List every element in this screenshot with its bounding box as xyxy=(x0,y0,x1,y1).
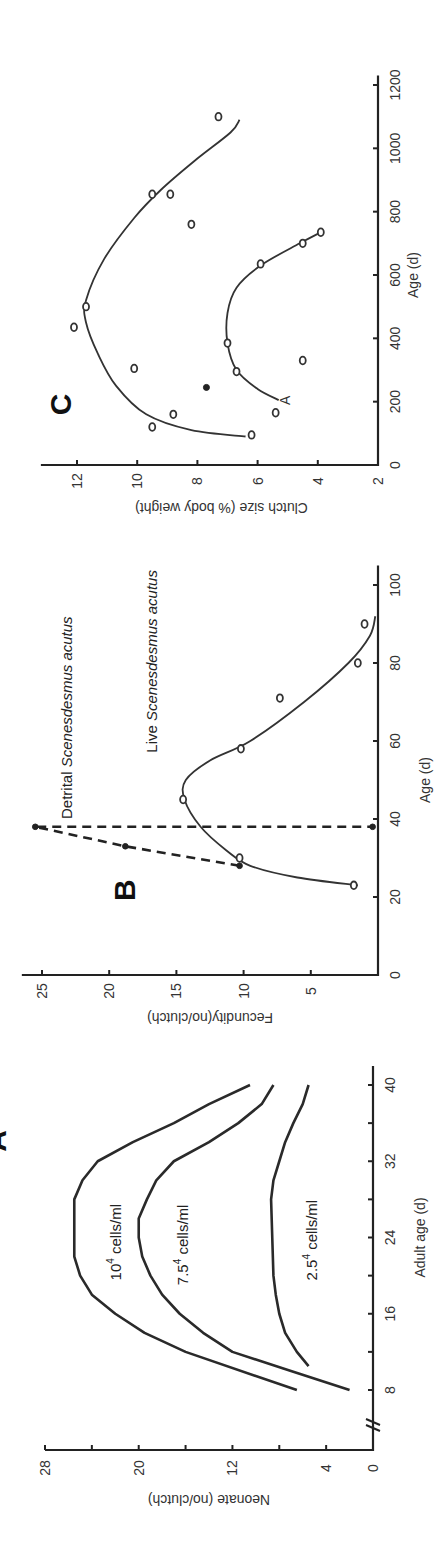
data-point-filled xyxy=(203,384,209,390)
x-tick-label: 60 xyxy=(387,733,403,749)
series-label-main: 2.5 xyxy=(303,1260,320,1281)
series-label-detrital: Detrital Scenesdesmus acutus xyxy=(58,616,75,819)
data-point-live xyxy=(355,659,361,667)
x-tick-label: 20 xyxy=(387,889,403,905)
x-tick-label: 1200 xyxy=(387,69,403,100)
series-curve-lower xyxy=(226,232,320,400)
data-point-detrital xyxy=(237,863,243,869)
x-tick-label: 0 xyxy=(387,461,403,469)
y-tick-label: 28 xyxy=(37,1460,53,1476)
series-label-tail: cells/ml xyxy=(303,1200,320,1254)
panel-a: 04122028816243240Adult age (d)Neonate (n… xyxy=(0,1066,428,1508)
data-point-upper xyxy=(249,431,255,439)
data-point-upper xyxy=(188,221,194,229)
x-tick-label: 16 xyxy=(382,1306,398,1322)
series-label-italic: Scenesdesmus acutus xyxy=(58,616,75,767)
x-axis-label: Age (d) xyxy=(405,252,421,298)
y-axis-label: Fecundity(no/clutch) xyxy=(147,1010,273,1026)
series-label-plain: Detrital xyxy=(58,767,75,819)
data-point-live xyxy=(362,620,368,628)
figure: 04122028816243240Adult age (d)Neonate (n… xyxy=(0,0,448,1551)
x-axis-label: Age (d) xyxy=(417,757,433,803)
series-curve-upper xyxy=(84,120,245,437)
y-axis-label: Clutch size (% body weight) xyxy=(135,500,308,516)
figure-rotated-stage: 04122028816243240Adult age (d)Neonate (n… xyxy=(0,0,448,1551)
data-point-live xyxy=(351,882,357,890)
axis-lines xyxy=(41,76,378,466)
data-point-lower xyxy=(273,409,279,417)
x-tick-label: 32 xyxy=(382,1153,398,1169)
data-point-upper xyxy=(215,113,221,121)
y-tick-label: 8 xyxy=(189,477,205,485)
series-label-live: Live Scenesdesmus acutus xyxy=(143,570,160,753)
axis-lines xyxy=(45,1066,373,1450)
x-tick-label: 200 xyxy=(387,390,403,414)
x-tick-label: 8 xyxy=(382,1386,398,1394)
data-point-lower xyxy=(300,240,306,248)
data-point-upper xyxy=(170,411,176,419)
y-tick-label: 5 xyxy=(303,987,319,995)
data-point-detrital xyxy=(123,844,129,850)
y-tick-label: 0 xyxy=(365,1464,381,1472)
data-point-upper xyxy=(131,365,137,373)
data-point-live xyxy=(180,796,186,804)
y-tick-label: 20 xyxy=(131,1460,147,1476)
panel-label-b: B xyxy=(108,879,141,901)
series-label-sup: 4 xyxy=(105,1258,116,1264)
series-line-detrital xyxy=(35,827,372,866)
x-tick-label: 0 xyxy=(387,971,403,979)
x-tick-label: 24 xyxy=(382,1230,398,1246)
data-point-live xyxy=(238,745,244,753)
y-tick-label: 10 xyxy=(129,473,145,489)
y-tick-label: 12 xyxy=(224,1460,240,1476)
data-point-live xyxy=(277,694,283,702)
y-tick-label: 4 xyxy=(310,477,326,485)
series-line-live xyxy=(183,616,376,885)
x-tick-label: 400 xyxy=(387,326,403,350)
x-tick-label: 600 xyxy=(387,263,403,287)
data-point-lower xyxy=(225,339,231,347)
data-point-lower xyxy=(258,260,264,268)
series-label-italic: Scenesdesmus acutus xyxy=(143,570,160,721)
x-tick-label: 1000 xyxy=(387,133,403,164)
data-point-upper xyxy=(167,190,173,198)
data-point-upper xyxy=(83,303,89,311)
series-label-tail: cells/ml xyxy=(174,1205,191,1259)
data-point-upper xyxy=(149,190,155,198)
series-label-2.5e4: 2.54 cells/ml xyxy=(301,1200,320,1281)
y-tick-label: 4 xyxy=(318,1464,334,1472)
x-tick-label: 40 xyxy=(387,811,403,827)
series-label-sup: 4 xyxy=(172,1258,183,1264)
data-point-lower xyxy=(318,228,324,236)
panel-c: 24681012020040060080010001200Age (d)Clut… xyxy=(41,69,421,516)
series-label-main: 10 xyxy=(107,1264,124,1281)
data-point-live xyxy=(237,854,243,862)
data-point-upper xyxy=(149,423,155,431)
series-label-plain: Live xyxy=(143,721,160,753)
data-point-detrital xyxy=(32,824,38,830)
data-point-upper xyxy=(71,323,77,331)
y-tick-label: 20 xyxy=(101,983,117,999)
y-tick-label: 2 xyxy=(370,477,386,485)
y-tick-label: 6 xyxy=(250,477,266,485)
series-label-sup: 4 xyxy=(301,1254,312,1260)
x-tick-label: 100 xyxy=(387,573,403,597)
panel-b: 510152025020406080100Age (d)Fecundity(no… xyxy=(22,566,433,1027)
panel-label-c: C xyxy=(44,394,77,416)
series-label-10e4: 104 cells/ml xyxy=(105,1204,124,1280)
x-tick-label: 80 xyxy=(387,655,403,671)
series-label-tail: cells/ml xyxy=(107,1204,124,1258)
y-axis-label: Neonate (no/clutch) xyxy=(148,1492,270,1508)
y-tick-label: 15 xyxy=(168,983,184,999)
panel-label-a: A xyxy=(0,1130,12,1152)
y-tick-label: 10 xyxy=(236,983,252,999)
annotation-a: A xyxy=(277,395,293,405)
data-point-lower xyxy=(234,368,240,376)
axis-lines xyxy=(22,566,378,976)
y-tick-label: 12 xyxy=(69,473,85,489)
series-label-main: 7.5 xyxy=(174,1264,191,1285)
series-label-7.5e4: 7.54 cells/ml xyxy=(172,1205,191,1286)
data-point-lower xyxy=(300,357,306,365)
x-axis-label: Adult age (d) xyxy=(412,1197,428,1277)
y-tick-label: 25 xyxy=(34,983,50,999)
